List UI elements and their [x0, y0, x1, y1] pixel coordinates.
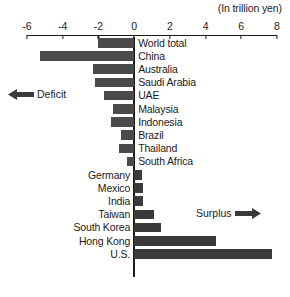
- category-label: Mexico: [98, 182, 130, 195]
- chart-row: South Korea: [0, 222, 290, 235]
- category-label: Thailand: [138, 142, 177, 155]
- bar: [134, 170, 142, 180]
- plot-area: World totalChinaAustraliaSaudi ArabiaUAE…: [0, 37, 290, 285]
- bar: [134, 183, 143, 193]
- chart-row: World total: [0, 37, 290, 50]
- chart-row: Malaysia: [0, 103, 290, 116]
- category-label: U.S.: [110, 248, 130, 261]
- category-label: South Africa: [138, 155, 193, 168]
- x-axis: -6-4-202468: [0, 20, 290, 38]
- category-label: Germany: [88, 169, 130, 182]
- chart-row: Hong Kong: [0, 235, 290, 248]
- x-tick-label: -2: [94, 20, 103, 32]
- x-tick-label: 4: [203, 20, 209, 32]
- bar: [93, 64, 134, 74]
- category-label: India: [108, 195, 130, 208]
- category-label: Saudi Arabia: [138, 76, 196, 89]
- category-label: China: [138, 50, 165, 63]
- category-label: World total: [138, 37, 186, 50]
- bar: [111, 117, 134, 127]
- category-label: Malaysia: [138, 103, 178, 116]
- bar: [127, 157, 134, 167]
- bar: [104, 91, 134, 101]
- x-tick-label: 6: [238, 20, 244, 32]
- bar: [134, 236, 216, 246]
- chart-row: Indonesia: [0, 116, 290, 129]
- chart-row: China: [0, 50, 290, 63]
- bar: [95, 78, 134, 88]
- bar: [121, 130, 134, 140]
- unit-note-label: (In trillion yen): [218, 2, 282, 14]
- category-label: Hong Kong: [79, 235, 130, 248]
- chart-row: Australia: [0, 63, 290, 76]
- bar: [134, 210, 154, 220]
- chart-row: Mexico: [0, 182, 290, 195]
- x-tick-label: 8: [274, 20, 280, 32]
- chart-row: U.S.: [0, 248, 290, 261]
- arrow-left-icon: [8, 89, 34, 100]
- surplus-annotation: Surplus: [196, 208, 261, 219]
- surplus-label: Surplus: [196, 208, 232, 219]
- x-tick-label: -4: [58, 20, 67, 32]
- x-tick-label: 2: [167, 20, 173, 32]
- chart-row: Germany: [0, 169, 290, 182]
- category-label: Brazil: [138, 129, 163, 142]
- category-label: South Korea: [73, 221, 130, 234]
- bar: [134, 196, 143, 206]
- bar: [113, 104, 134, 114]
- chart-row: India: [0, 195, 290, 208]
- category-label: UAE: [138, 89, 159, 102]
- arrow-right-icon: [235, 208, 261, 219]
- bar: [40, 51, 135, 61]
- chart-row: Brazil: [0, 129, 290, 142]
- category-label: Australia: [138, 63, 178, 76]
- bar: [119, 144, 134, 154]
- category-label: Indonesia: [138, 116, 182, 129]
- bar: [98, 38, 134, 48]
- deficit-annotation: Deficit: [8, 89, 66, 100]
- chart-row: South Africa: [0, 156, 290, 169]
- bar: [134, 223, 161, 233]
- deficit-label: Deficit: [37, 89, 66, 100]
- bar: [134, 249, 272, 259]
- chart-row: Thailand: [0, 143, 290, 156]
- x-tick-label: -6: [22, 20, 31, 32]
- category-label: Taiwan: [98, 208, 130, 221]
- trade-balance-bar-chart: (In trillion yen) -6-4-202468 World tota…: [0, 0, 290, 297]
- x-tick-label: 0: [131, 20, 137, 32]
